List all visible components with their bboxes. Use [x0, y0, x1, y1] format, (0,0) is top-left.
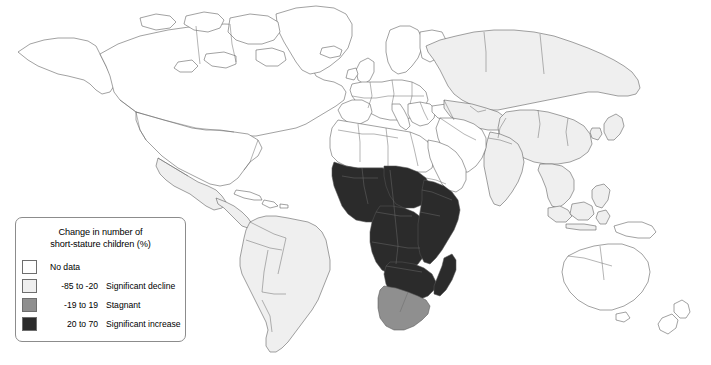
region-korea	[590, 128, 602, 140]
region-new-zealand	[674, 300, 690, 318]
region-east-africa	[418, 180, 460, 264]
region-southeast-asia	[538, 164, 574, 208]
region-new-guinea	[614, 222, 656, 238]
legend-desc-significant-decline: Significant decline	[106, 281, 175, 291]
legend-desc-stagnant: Stagnant	[106, 300, 140, 310]
region-hispaniola	[262, 200, 278, 208]
legend-swatch-significant-increase	[22, 317, 37, 331]
region-south-america	[240, 216, 330, 352]
legend-range-significant-decline: -85 to -20	[46, 281, 98, 291]
legend-items: No data -85 to -20 Significant decline -…	[16, 257, 185, 333]
legend-item-significant-decline: -85 to -20 Significant decline	[22, 276, 185, 295]
legend-range-stagnant: -19 to 19	[46, 300, 98, 310]
legend-item-no-data: No data	[22, 257, 185, 276]
legend-item-stagnant: -19 to 19 Stagnant	[22, 295, 185, 314]
region-sumatra	[548, 206, 572, 222]
legend-title-line1: Change in number of	[22, 227, 179, 239]
region-sulawesi	[596, 210, 610, 224]
legend-desc-significant-increase: Significant increase	[106, 319, 181, 329]
world-map-figure: Change in number of short-stature childr…	[0, 0, 711, 365]
region-tasmania	[616, 312, 630, 322]
region-java	[566, 224, 596, 230]
region-alaska	[18, 38, 114, 94]
legend-swatch-significant-decline	[22, 279, 37, 293]
legend-range-significant-increase: 20 to 70	[46, 319, 98, 329]
region-new-zealand-south	[658, 314, 678, 334]
legend-title: Change in number of short-stature childr…	[16, 218, 185, 250]
region-arctic-islands	[228, 14, 280, 44]
region-cuba	[234, 190, 262, 200]
region-japan	[604, 114, 624, 140]
legend-item-significant-increase: 20 to 70 Significant increase	[22, 314, 185, 333]
legend-title-line2: short-stature children (%)	[22, 239, 179, 251]
region-madagascar	[434, 254, 456, 296]
region-arctic-island-3	[140, 14, 176, 30]
legend-swatch-stagnant	[22, 298, 37, 312]
region-central-america	[216, 198, 252, 228]
region-balkans	[408, 102, 436, 126]
region-australia	[562, 244, 650, 310]
region-russia	[426, 30, 640, 110]
region-great-britain	[356, 58, 374, 84]
legend-swatch-no-data	[22, 260, 37, 274]
region-iberia	[338, 100, 372, 124]
region-borneo	[570, 202, 594, 220]
map-legend: Change in number of short-stature childr…	[15, 217, 186, 342]
region-north-africa	[330, 120, 434, 172]
region-scandinavia	[386, 26, 422, 74]
legend-range-no-data: No data	[50, 262, 80, 272]
region-philippines	[592, 184, 610, 208]
region-ireland	[346, 68, 358, 80]
region-puerto-rico	[280, 204, 288, 208]
